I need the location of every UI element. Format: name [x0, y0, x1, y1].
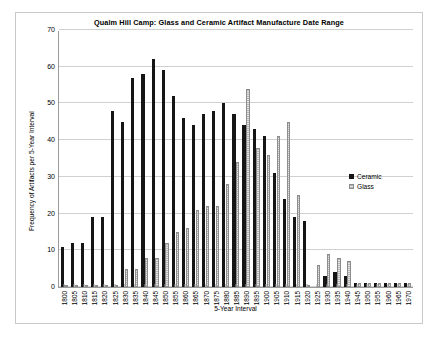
legend-item-glass[interactable]: Glass	[349, 183, 382, 190]
bar-glass-1915[interactable]	[297, 195, 300, 287]
chart-title: Qualm Hill Camp: Glass and Ceramic Artif…	[16, 18, 422, 27]
x-tick-label-1940: 1940	[344, 291, 351, 305]
x-tick-label-1910: 1910	[283, 291, 290, 305]
bar-ceramic-1895[interactable]	[253, 129, 256, 287]
x-tick-1830	[124, 284, 125, 287]
bar-glass-1810[interactable]	[85, 285, 88, 287]
bar-glass-1970[interactable]	[408, 283, 411, 287]
bar-ceramic-1805[interactable]	[71, 243, 74, 287]
x-tick-1905	[276, 284, 277, 287]
bar-ceramic-1855[interactable]	[172, 96, 175, 287]
bar-glass-1850[interactable]	[165, 243, 168, 287]
bar-glass-1835[interactable]	[135, 269, 138, 287]
bar-glass-1945[interactable]	[358, 283, 361, 287]
x-tick-1965	[397, 284, 398, 287]
x-tick-1925	[316, 284, 317, 287]
bar-glass-1925[interactable]	[317, 265, 320, 287]
bar-glass-1855[interactable]	[176, 232, 179, 287]
y-tick-label-0: 0	[51, 283, 55, 290]
bar-ceramic-1845[interactable]	[152, 59, 155, 287]
bar-glass-1890[interactable]	[246, 89, 249, 287]
bar-glass-1940[interactable]	[347, 261, 350, 287]
plot-area: 010203040506070 180018051810181518201825…	[58, 31, 413, 288]
bar-glass-1805[interactable]	[75, 285, 78, 287]
category-group-1840: 1840	[140, 31, 150, 287]
x-tick-label-1970: 1970	[404, 291, 411, 305]
bar-ceramic-1865[interactable]	[192, 125, 195, 287]
bar-glass-1840[interactable]	[145, 258, 148, 287]
bar-ceramic-1830[interactable]	[121, 122, 124, 287]
bar-glass-1860[interactable]	[186, 228, 189, 287]
bar-ceramic-1810[interactable]	[81, 243, 84, 287]
bar-ceramic-1850[interactable]	[162, 70, 165, 287]
bar-glass-1825[interactable]	[115, 285, 118, 287]
bar-glass-1885[interactable]	[236, 162, 239, 287]
bar-glass-1910[interactable]	[287, 122, 290, 287]
bar-glass-1800[interactable]	[64, 285, 67, 287]
bar-ceramic-1860[interactable]	[182, 118, 185, 287]
bar-glass-1820[interactable]	[105, 285, 108, 287]
bar-glass-1950[interactable]	[368, 283, 371, 287]
x-tick-label-1870: 1870	[202, 291, 209, 305]
bar-glass-1930[interactable]	[327, 254, 330, 287]
bar-ceramic-1825[interactable]	[111, 111, 114, 287]
x-tick-label-1810: 1810	[81, 291, 88, 305]
bar-glass-1965[interactable]	[398, 283, 401, 287]
bar-ceramic-1910[interactable]	[283, 199, 286, 287]
legend-swatch-glass-icon	[349, 184, 354, 189]
bar-ceramic-1880[interactable]	[222, 103, 225, 287]
x-tick-1970	[407, 284, 408, 287]
category-group-1875: 1875	[211, 31, 221, 287]
bar-ceramic-1900[interactable]	[263, 136, 266, 287]
y-tick-label-10: 10	[47, 246, 55, 253]
category-group-1815: 1815	[89, 31, 99, 287]
bar-ceramic-1870[interactable]	[202, 114, 205, 287]
bar-ceramic-1885[interactable]	[232, 114, 235, 287]
bar-ceramic-1920[interactable]	[303, 221, 306, 287]
x-tick-1870	[205, 284, 206, 287]
x-tick-1960	[387, 284, 388, 287]
category-group-1810: 1810	[79, 31, 89, 287]
category-group-1965: 1965	[393, 31, 403, 287]
category-group-1925: 1925	[312, 31, 322, 287]
x-tick-1860	[185, 284, 186, 287]
category-group-1920: 1920	[302, 31, 312, 287]
bar-ceramic-1840[interactable]	[141, 74, 144, 287]
bar-ceramic-1875[interactable]	[212, 111, 215, 287]
bar-glass-1955[interactable]	[378, 283, 381, 287]
bar-ceramic-1905[interactable]	[273, 173, 276, 287]
bar-glass-1895[interactable]	[256, 148, 259, 288]
bar-glass-1880[interactable]	[226, 184, 229, 287]
bar-glass-1845[interactable]	[155, 258, 158, 287]
bar-ceramic-1800[interactable]	[61, 247, 64, 287]
x-tick-1850	[165, 284, 166, 287]
x-tick-1920	[306, 284, 307, 287]
category-group-1930: 1930	[322, 31, 332, 287]
bar-glass-1865[interactable]	[196, 210, 199, 287]
x-tick-1910	[286, 284, 287, 287]
bar-glass-1870[interactable]	[206, 206, 209, 287]
y-axis-title: Frequency of Artifacts per 5-Year Interv…	[28, 43, 35, 300]
bar-ceramic-1915[interactable]	[293, 217, 296, 287]
bar-glass-1960[interactable]	[388, 283, 391, 287]
bar-ceramic-1815[interactable]	[91, 217, 94, 287]
x-tick-label-1820: 1820	[101, 291, 108, 305]
category-group-1960: 1960	[383, 31, 393, 287]
x-tick-1805	[74, 284, 75, 287]
bar-ceramic-1890[interactable]	[242, 125, 245, 287]
x-tick-1840	[144, 284, 145, 287]
bar-glass-1830[interactable]	[125, 269, 128, 287]
x-tick-label-1815: 1815	[91, 291, 98, 305]
bar-ceramic-1835[interactable]	[131, 78, 134, 287]
bar-glass-1920[interactable]	[307, 285, 310, 287]
category-group-1895: 1895	[251, 31, 261, 287]
legend-item-ceramic[interactable]: Ceramic	[349, 173, 382, 180]
x-tick-1950	[367, 284, 368, 287]
bar-glass-1875[interactable]	[216, 206, 219, 287]
bar-glass-1815[interactable]	[95, 285, 98, 287]
x-tick-label-1800: 1800	[61, 291, 68, 305]
bar-glass-1905[interactable]	[277, 136, 280, 287]
bar-glass-1900[interactable]	[267, 155, 270, 287]
bar-ceramic-1820[interactable]	[101, 217, 104, 287]
bar-glass-1935[interactable]	[337, 258, 340, 287]
